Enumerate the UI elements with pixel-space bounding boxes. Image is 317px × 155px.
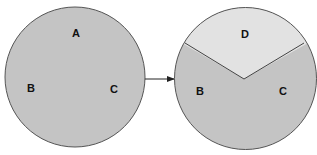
label-b: B <box>27 82 35 94</box>
label-d: D <box>241 28 249 40</box>
diagram-canvas: A B C D B C <box>0 0 317 155</box>
label-c-right: C <box>279 85 287 97</box>
right-circle: D B C <box>175 0 317 150</box>
label-c: C <box>110 83 118 95</box>
label-a: A <box>72 27 80 39</box>
left-circle: A B C <box>5 7 145 147</box>
label-b-right: B <box>196 85 204 97</box>
